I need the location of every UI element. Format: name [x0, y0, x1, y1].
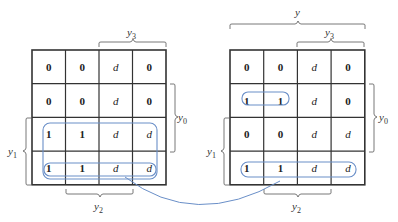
kmap-diagram: 00d000d011dd11dd 00d011d000dd11dd y3y0y1…	[0, 0, 398, 222]
kmap-cell: d	[147, 128, 153, 140]
kmap-cell: 0	[244, 128, 250, 140]
kmap-cell: d	[312, 162, 318, 174]
loop-right-row4	[241, 162, 356, 177]
brace-y1-left	[23, 118, 31, 185]
kmap-cell: d	[113, 128, 119, 140]
kmap-cell: 0	[46, 61, 52, 73]
kmap-cell: 0	[147, 95, 153, 107]
kmap-cell: d	[113, 61, 119, 73]
kmap-cell: 1	[80, 162, 86, 174]
kmap-cell: 1	[46, 128, 52, 140]
label-y3-right: y3	[324, 26, 334, 41]
left-karnaugh-map: 00d000d011dd11dd	[32, 50, 166, 185]
brace-y0-right	[369, 84, 377, 152]
kmap-cell: d	[345, 128, 351, 140]
label-y1-right: y1	[206, 145, 216, 160]
kmap-cell: 0	[278, 128, 284, 140]
label-y-right: y	[294, 6, 300, 18]
kmap-cell: 0	[244, 61, 250, 73]
kmap-cell: d	[113, 162, 119, 174]
label-y0-left: y0	[177, 111, 187, 126]
kmap-cell: 1	[278, 162, 284, 174]
brace-y2-right	[264, 189, 331, 197]
label-y0-right: y0	[378, 111, 388, 126]
kmap-cell: d	[113, 95, 119, 107]
label-y1-left: y1	[7, 145, 17, 160]
brace-y1-right	[221, 118, 229, 185]
connector-curve	[125, 177, 280, 205]
brace-y0-left	[170, 84, 178, 152]
kmap-cell: d	[312, 61, 318, 73]
kmap-cell: d	[312, 95, 318, 107]
kmap-cell: 1	[80, 128, 86, 140]
label-y2-left: y2	[93, 200, 103, 215]
kmap-cell: 0	[80, 61, 86, 73]
brace-y2-left	[66, 189, 133, 197]
kmap-cell: 1	[244, 162, 250, 174]
label-y3-left: y3	[126, 26, 136, 41]
kmap-cell: 0	[147, 61, 153, 73]
loop-left-row4	[44, 163, 156, 176]
right-karnaugh-map: 00d011d000dd11dd	[230, 50, 365, 185]
kmap-cell: 0	[80, 95, 86, 107]
label-y2-right: y2	[291, 200, 301, 215]
kmap-cell: 0	[345, 61, 351, 73]
kmap-cell: 0	[345, 95, 351, 107]
kmap-cell: 0	[278, 61, 284, 73]
kmap-cell: d	[312, 128, 318, 140]
kmap-cell: d	[345, 162, 351, 174]
brace-y-right	[230, 21, 365, 29]
kmap-cell: 0	[46, 95, 52, 107]
